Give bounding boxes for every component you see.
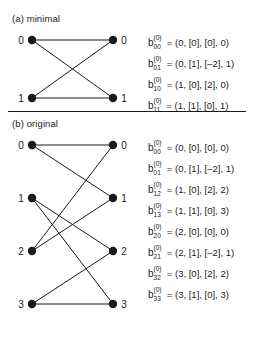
equation-symbol: b01(0)	[148, 58, 161, 69]
panel-divider	[8, 111, 246, 112]
equation-subscript: 20	[154, 232, 161, 239]
figure-container: (a) minimal 0101 b00(0)= (0, [0], [0], 0…	[0, 0, 253, 346]
equation-body: = (2, [1], [–2], 1)	[167, 247, 234, 258]
graph-node-left-label: 1	[18, 93, 24, 104]
graph-edge	[32, 251, 113, 304]
equation-symbol: b00(0)	[148, 142, 161, 153]
equation-row: b00(0)= (0, [0], [0], 0)	[148, 32, 234, 53]
panel-a-equation-list: b00(0)= (0, [0], [0], 0)b01(0)= (0, [1],…	[148, 32, 234, 116]
equation-body: = (1, [1], [0], 1)	[166, 100, 228, 111]
equation-row: b01(0)= (0, [1], [–2], 1)	[148, 158, 234, 179]
equation-superscript: (0)	[154, 139, 162, 146]
graph-node-right	[109, 94, 117, 102]
equation-row: b11(0)= (1, [1], [0], 1)	[148, 95, 234, 116]
equation-body: = (3, [0], [2], 2)	[167, 268, 229, 279]
equation-superscript: (0)	[154, 202, 162, 209]
equation-subscript: 01	[154, 169, 161, 176]
graph-node-right	[109, 194, 117, 202]
graph-edge	[32, 198, 113, 304]
equation-subscript: 10	[154, 85, 161, 92]
graph-node-right-label: 0	[121, 140, 127, 151]
equation-symbol: b20(0)	[148, 226, 161, 237]
equation-superscript: (0)	[154, 244, 162, 251]
equation-row: b21(0)= (2, [1], [–2], 1)	[148, 242, 234, 263]
panel-b-bipartite-graph: 01230123	[14, 137, 134, 317]
graph-node-right	[109, 247, 117, 255]
graph-node-left	[28, 194, 36, 202]
graph-node-left	[28, 247, 36, 255]
panel-b-equation-list: b00(0)= (0, [0], [0], 0)b01(0)= (0, [1],…	[148, 137, 234, 305]
equation-body: = (1, [1], [0], 3)	[167, 205, 229, 216]
equation-subscript: 21	[154, 253, 161, 260]
panel-a-title: (a) minimal	[12, 13, 60, 24]
graph-node-right-label: 2	[121, 246, 127, 257]
equation-subscript: 13	[154, 211, 161, 218]
graph-node-right-label: 3	[121, 299, 127, 310]
graph-node-right	[109, 300, 117, 308]
panel-a-bipartite-graph: 0101	[14, 32, 134, 102]
graph-edge	[32, 145, 113, 198]
equation-superscript: (0)	[154, 160, 162, 167]
graph-node-left	[28, 94, 36, 102]
graph-node-left-label: 0	[18, 140, 24, 151]
equation-superscript: (0)	[154, 223, 162, 230]
graph-node-right	[109, 141, 117, 149]
equation-row: b01(0)= (0, [1], [–2], 1)	[148, 53, 234, 74]
equation-body: = (1, [0], [2], 0)	[167, 79, 229, 90]
equation-subscript: 32	[154, 274, 161, 281]
equation-subscript: 01	[154, 64, 161, 71]
equation-body: = (0, [0], [0], 0)	[167, 37, 229, 48]
equation-superscript: (0)	[154, 55, 162, 62]
equation-symbol: b11(0)	[148, 100, 160, 111]
graph-edge	[32, 145, 113, 251]
equation-symbol: b12(0)	[148, 184, 161, 195]
graph-node-left-label: 2	[18, 246, 24, 257]
equation-body: = (0, [0], [0], 0)	[167, 142, 229, 153]
equation-superscript: (0)	[154, 181, 162, 188]
equation-symbol: b21(0)	[148, 247, 161, 258]
equation-row: b10(0)= (1, [0], [2], 0)	[148, 74, 234, 95]
equation-superscript: (0)	[154, 76, 162, 83]
equation-row: b20(0)= (2, [0], [0], 0)	[148, 221, 234, 242]
equation-body: = (0, [1], [–2], 1)	[167, 58, 234, 69]
equation-subscript: 12	[154, 190, 161, 197]
equation-row: b12(0)= (1, [0], [2], 2)	[148, 179, 234, 200]
panel-b-title: (b) original	[12, 118, 58, 129]
equation-row: b13(0)= (1, [1], [0], 3)	[148, 200, 234, 221]
equation-symbol: b33(0)	[148, 289, 161, 300]
equation-superscript: (0)	[154, 286, 162, 293]
equation-superscript: (0)	[154, 97, 162, 104]
equation-symbol: b01(0)	[148, 163, 161, 174]
equation-superscript: (0)	[154, 265, 162, 272]
graph-node-right-label: 1	[121, 93, 127, 104]
graph-node-left	[28, 36, 36, 44]
equation-subscript: 33	[154, 295, 161, 302]
equation-symbol: b10(0)	[148, 79, 161, 90]
graph-node-right-label: 1	[121, 193, 127, 204]
graph-node-left	[28, 141, 36, 149]
graph-node-left-label: 1	[18, 193, 24, 204]
graph-node-left-label: 0	[18, 35, 24, 46]
equation-row: b32(0)= (3, [0], [2], 2)	[148, 263, 234, 284]
equation-row: b33(0)= (3, [1], [0], 3)	[148, 284, 234, 305]
equation-row: b00(0)= (0, [0], [0], 0)	[148, 137, 234, 158]
equation-body: = (1, [0], [2], 2)	[167, 184, 229, 195]
equation-symbol: b32(0)	[148, 268, 161, 279]
equation-subscript: 00	[154, 148, 161, 155]
graph-node-right-label: 0	[121, 35, 127, 46]
equation-symbol: b00(0)	[148, 37, 161, 48]
equation-superscript: (0)	[154, 34, 162, 41]
equation-body: = (2, [0], [0], 0)	[167, 226, 229, 237]
equation-body: = (3, [1], [0], 3)	[167, 289, 229, 300]
graph-node-left	[28, 300, 36, 308]
equation-symbol: b13(0)	[148, 205, 161, 216]
equation-subscript: 00	[154, 43, 161, 50]
equation-body: = (0, [1], [–2], 1)	[167, 163, 234, 174]
graph-node-right	[109, 36, 117, 44]
graph-node-left-label: 3	[18, 299, 24, 310]
